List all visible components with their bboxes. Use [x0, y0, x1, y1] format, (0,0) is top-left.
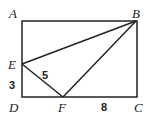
length-ef: 5: [42, 69, 48, 81]
label-d: D: [8, 100, 19, 115]
label-e: E: [7, 57, 16, 72]
rectangle-abcd: [22, 21, 137, 97]
label-b: B: [132, 6, 140, 21]
segment-eb: [22, 21, 136, 64]
label-a: A: [8, 6, 17, 21]
geometry-diagram: A B C D E F 5 3 8: [0, 0, 149, 115]
length-ed: 3: [9, 79, 15, 91]
label-f: F: [57, 100, 67, 115]
length-fc: 8: [101, 101, 107, 113]
segment-fb: [63, 21, 136, 97]
label-c: C: [134, 100, 143, 115]
